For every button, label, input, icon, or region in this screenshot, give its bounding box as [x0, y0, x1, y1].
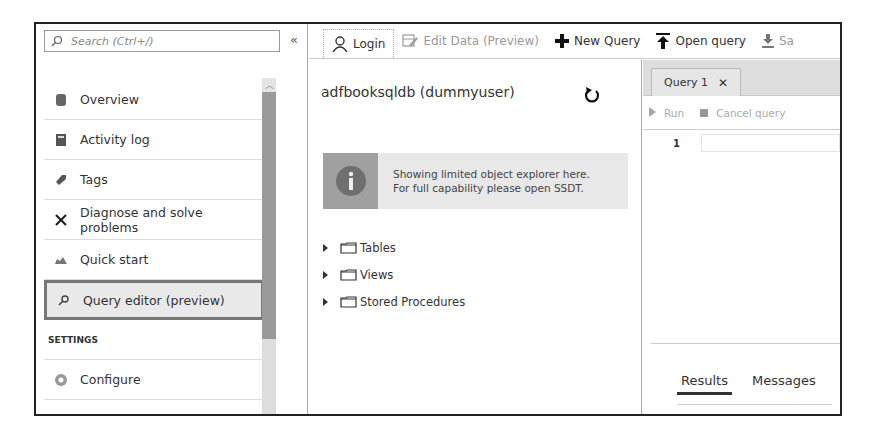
- tree-node-tables[interactable]: Tables: [323, 234, 465, 261]
- search-placeholder: Search (Ctrl+/): [71, 35, 154, 48]
- azure-portal-window: Search (Ctrl+/) « Overview Activity log …: [34, 22, 842, 416]
- nav-item-label: Diagnose and solve problems: [80, 205, 264, 235]
- info-icon: [323, 153, 378, 209]
- section-heading-settings: SETTINGS: [44, 320, 264, 360]
- tree-node-views[interactable]: Views: [323, 261, 465, 288]
- collapse-menu-button[interactable]: «: [290, 32, 298, 47]
- configure-icon: [54, 373, 68, 387]
- stop-icon: [700, 107, 708, 119]
- wrench-icon: [54, 213, 68, 227]
- nav-item-configure[interactable]: Configure: [44, 360, 264, 400]
- info-line-1: Showing limited object explorer here.: [393, 167, 590, 181]
- query-tab[interactable]: Query 1 ✕: [651, 68, 741, 96]
- cancel-query-label: Cancel query: [716, 107, 785, 119]
- open-query-button[interactable]: Open query: [648, 24, 754, 58]
- nav-item-label: Configure: [80, 372, 141, 387]
- refresh-icon: [584, 86, 600, 104]
- nav-item-query-editor[interactable]: Query editor (preview): [44, 280, 264, 320]
- info-line-2: For full capability please open SSDT.: [393, 181, 590, 195]
- tree-node-label: Views: [360, 268, 393, 282]
- search-icon: [51, 35, 63, 47]
- plus-icon: [555, 34, 569, 48]
- nav-item-tags[interactable]: Tags: [44, 160, 264, 200]
- nav-item-quick-start[interactable]: Quick start: [44, 240, 264, 280]
- folder-icon: [340, 269, 358, 281]
- download-icon: [762, 34, 774, 48]
- folder-icon: [340, 242, 358, 254]
- query-panel: Query 1 ✕ Run Cancel query 1 Results Mes…: [643, 60, 840, 414]
- expand-arrow-icon[interactable]: [323, 298, 328, 306]
- scroll-thumb[interactable]: [262, 92, 276, 339]
- cancel-query-button[interactable]: Cancel query: [700, 107, 785, 119]
- nav-item-label: Quick start: [80, 252, 148, 267]
- result-tabs: Results Messages: [677, 373, 836, 395]
- new-query-label: New Query: [574, 34, 640, 48]
- activity-log-icon: [54, 133, 68, 147]
- info-banner: Showing limited object explorer here. Fo…: [323, 153, 628, 209]
- tab-results[interactable]: Results: [677, 373, 732, 395]
- save-query-label: Sa: [779, 34, 794, 48]
- edit-data-icon: [402, 34, 418, 48]
- refresh-button[interactable]: [584, 86, 600, 108]
- run-button[interactable]: Run: [649, 107, 684, 119]
- user-icon: [332, 36, 348, 52]
- resource-menu: Search (Ctrl+/) « Overview Activity log …: [36, 24, 308, 414]
- nav-item-overview[interactable]: Overview: [44, 80, 264, 120]
- tree-node-label: Stored Procedures: [360, 295, 465, 309]
- nav-item-diagnose[interactable]: Diagnose and solve problems: [44, 200, 264, 240]
- nav-item-label: Tags: [80, 172, 108, 187]
- sql-database-icon: [54, 93, 68, 107]
- nav-item-label: Activity log: [80, 132, 150, 147]
- line-number: 1: [673, 138, 680, 149]
- expand-arrow-icon[interactable]: [323, 244, 328, 252]
- save-query-button[interactable]: Sa: [754, 24, 802, 58]
- nav-scrollbar[interactable]: ︿: [262, 78, 276, 414]
- tree-node-label: Tables: [360, 241, 396, 255]
- search-input[interactable]: Search (Ctrl+/): [44, 30, 280, 52]
- nav-list: Overview Activity log Tags Diagnose and …: [44, 80, 264, 400]
- run-bar: Run Cancel query: [643, 96, 840, 130]
- run-label: Run: [664, 107, 684, 119]
- query-tab-strip: Query 1 ✕: [643, 60, 840, 96]
- folder-icon: [340, 296, 358, 308]
- tree-node-stored-procedures[interactable]: Stored Procedures: [323, 288, 465, 315]
- results-divider[interactable]: [651, 343, 840, 344]
- database-title: adfbooksqldb (dummyuser): [321, 84, 515, 100]
- login-button[interactable]: Login: [323, 29, 394, 59]
- nav-item-activity-log[interactable]: Activity log: [44, 120, 264, 160]
- new-query-button[interactable]: New Query: [547, 24, 648, 58]
- nav-item-label: Query editor (preview): [83, 293, 225, 308]
- play-icon: [649, 107, 656, 119]
- login-label: Login: [353, 37, 385, 51]
- close-icon[interactable]: ✕: [718, 76, 728, 90]
- cloud-icon: [54, 253, 68, 267]
- open-upload-icon: [656, 33, 670, 49]
- query-editor-toolbar: Login Edit Data (Preview) New Query Open…: [309, 24, 840, 59]
- object-tree: Tables Views Stored Procedures: [323, 234, 465, 315]
- tag-icon: [54, 173, 68, 187]
- query-tab-label: Query 1: [664, 76, 708, 89]
- current-line-highlight: [701, 134, 840, 152]
- object-explorer: adfbooksqldb (dummyuser) Showing limited…: [309, 60, 642, 414]
- open-query-label: Open query: [675, 34, 746, 48]
- result-tabs-underline: [677, 404, 832, 405]
- edit-data-label: Edit Data (Preview): [423, 34, 539, 48]
- edit-data-button[interactable]: Edit Data (Preview): [394, 24, 547, 58]
- scroll-up-button[interactable]: ︿: [262, 78, 276, 92]
- nav-item-label: Overview: [80, 92, 139, 107]
- tab-messages[interactable]: Messages: [748, 373, 820, 395]
- query-editor[interactable]: 1: [643, 130, 840, 340]
- query-editor-icon: [57, 293, 71, 307]
- expand-arrow-icon[interactable]: [323, 271, 328, 279]
